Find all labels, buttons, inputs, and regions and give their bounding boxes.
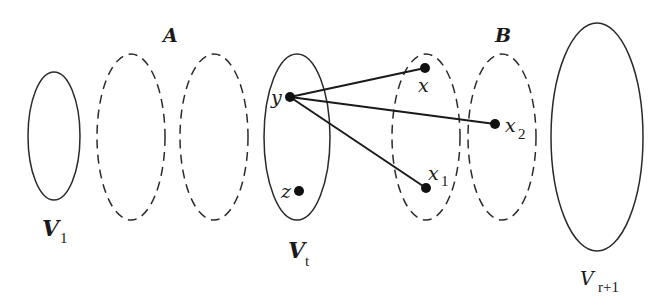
- vertex-label-x2-base: x: [505, 114, 516, 136]
- set-label-v1-subscript: 1: [60, 230, 68, 246]
- set-label-v1-base: V: [42, 215, 61, 241]
- set-a-second-ellipse: [180, 54, 248, 220]
- vertex-label-y: y: [270, 86, 282, 108]
- vertex-label-x: x: [418, 74, 429, 96]
- vertex-label-z: z: [280, 180, 292, 202]
- set-label-vr1-base: V: [580, 267, 596, 289]
- edge-y-x2: [290, 97, 495, 124]
- set-v1-ellipse: [28, 72, 80, 200]
- set-label-vr1-subscript: r+1: [598, 279, 619, 295]
- set-b-ellipse: [468, 54, 536, 220]
- group-label-a: A: [161, 24, 178, 46]
- vertex-x: [420, 63, 430, 73]
- set-label-vt-subscript: t: [305, 253, 310, 269]
- set-a-first-ellipse: [97, 54, 165, 220]
- vertex-label-x1-subscript: 1: [441, 173, 449, 189]
- set-label-vt: V t: [288, 237, 310, 269]
- vertex-label-x2-subscript: 2: [518, 126, 526, 142]
- set-label-vr1: V r+1: [580, 267, 619, 295]
- group-label-b: B: [494, 24, 511, 46]
- diagram-canvas: A B y z x x 1 x 2 V 1 V t V r+1: [0, 0, 660, 305]
- vertex-x1: [421, 183, 431, 193]
- set-label-v1: V 1: [42, 215, 68, 246]
- edge-y-x: [290, 68, 425, 97]
- vertex-y: [285, 92, 295, 102]
- vertex-label-x1: x 1: [428, 162, 449, 189]
- edge-y-x1: [290, 97, 426, 188]
- set-vr1-ellipse: [551, 23, 643, 251]
- vertex-label-x2: x 2: [505, 114, 526, 142]
- vertex-label-x1-base: x: [428, 162, 439, 184]
- vertex-z: [294, 186, 304, 196]
- vertex-x2: [490, 119, 500, 129]
